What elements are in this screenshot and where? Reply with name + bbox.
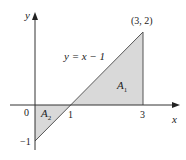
x-tick-1: 1 bbox=[68, 109, 73, 120]
x-axis-arrow-icon bbox=[172, 102, 180, 108]
y-axis-arrow-icon bbox=[32, 12, 38, 20]
y-axis-label: y bbox=[24, 9, 30, 21]
equation-label: y = x − 1 bbox=[63, 50, 105, 62]
graph-figure: y x 0 1 3 −1 (3, 2) y = x − 1 A1 A2 bbox=[0, 0, 186, 160]
x-tick-3: 3 bbox=[140, 109, 145, 120]
x-axis-label: x bbox=[171, 113, 177, 125]
y-tick-neg1: −1 bbox=[20, 136, 31, 147]
origin-label: 0 bbox=[24, 107, 29, 118]
point-label: (3, 2) bbox=[131, 15, 153, 27]
